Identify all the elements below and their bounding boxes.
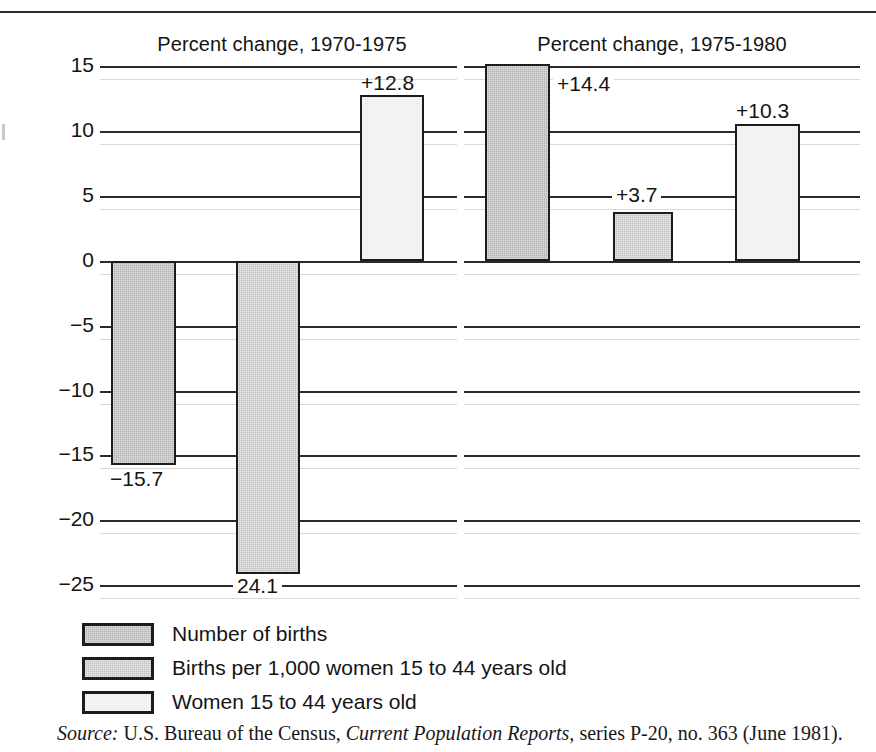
bar-label-left-number-of-births: −15.7 <box>110 467 163 491</box>
bar-right-women-15-to-44 <box>735 124 800 261</box>
bar-right-births-per-1000 <box>613 212 673 261</box>
gridline-right-neg15 <box>464 455 860 457</box>
bar-label-right-births-per-1000: +3.7 <box>612 183 661 207</box>
bar-chart: Percent change, 1970-1975 Percent change… <box>0 0 876 610</box>
bar-label-right-number-of-births: +14.4 <box>553 72 614 96</box>
gridline-right-neg25 <box>464 585 860 587</box>
ytick-10: 10 <box>22 118 94 142</box>
gridline-ghost-left-neg25 <box>100 598 457 599</box>
legend-swatch-number-of-births <box>82 623 154 646</box>
ytick-5: 5 <box>22 183 94 207</box>
source-text-a: U.S. Bureau of the Census, <box>118 722 345 744</box>
ytick-neg20: −20 <box>22 507 94 531</box>
gridline-left-15 <box>100 66 457 68</box>
source-prefix: Source: <box>57 722 118 744</box>
legend-label-women-15-to-44: Women 15 to 44 years old <box>172 690 417 714</box>
chart-legend: Number of births Births per 1,000 women … <box>0 617 876 717</box>
ytick-neg25: −25 <box>22 572 94 596</box>
gridline-ghost-right-neg20 <box>464 533 860 534</box>
panel-title-right: Percent change, 1975-1980 <box>464 33 860 56</box>
panel-title-left: Percent change, 1970-1975 <box>107 33 457 56</box>
legend-item-number-of-births: Number of births <box>82 621 327 647</box>
ytick-neg15: −15 <box>22 442 94 466</box>
gridline-ghost-right-neg5 <box>464 339 860 340</box>
legend-label-births-per-1000: Births per 1,000 women 15 to 44 years ol… <box>172 656 567 680</box>
gridline-right-neg20 <box>464 520 860 522</box>
legend-item-births-per-1000: Births per 1,000 women 15 to 44 years ol… <box>82 655 567 681</box>
gridline-right-0 <box>464 261 860 263</box>
ytick-neg10: −10 <box>22 378 94 402</box>
gridline-ghost-right-neg25 <box>464 598 860 599</box>
legend-swatch-women-15-to-44 <box>82 691 154 714</box>
ytick-0: 0 <box>22 248 94 272</box>
bar-left-women-15-to-44 <box>360 95 424 261</box>
gridline-ghost-right-neg15 <box>464 468 860 469</box>
legend-swatch-births-per-1000 <box>82 657 154 680</box>
bar-label-left-births-per-1000: 24.1 <box>233 574 282 598</box>
source-note: Source: U.S. Bureau of the Census, Curre… <box>57 722 843 745</box>
bar-label-left-women-15-to-44: +12.8 <box>361 71 414 95</box>
source-text-b: series P-20, no. 363 (June 1981). <box>574 722 842 744</box>
legend-item-women-15-to-44: Women 15 to 44 years old <box>82 689 417 715</box>
bar-left-births-per-1000 <box>236 261 300 574</box>
gridline-ghost-right-0 <box>464 274 860 275</box>
gridline-ghost-right-neg10 <box>464 404 860 405</box>
source-publication: Current Population Reports, <box>346 722 575 744</box>
legend-label-number-of-births: Number of births <box>172 622 327 646</box>
ytick-15: 15 <box>22 53 94 77</box>
bar-right-number-of-births <box>485 64 550 261</box>
ytick-neg5: −5 <box>22 313 94 337</box>
bar-left-number-of-births <box>111 261 176 465</box>
gridline-right-neg10 <box>464 391 860 393</box>
bar-label-right-women-15-to-44: +10.3 <box>736 99 789 123</box>
gridline-right-neg5 <box>464 326 860 328</box>
